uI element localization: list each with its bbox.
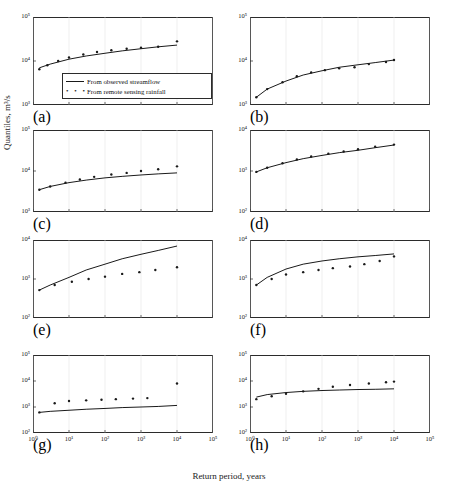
- series-point-remote-sensing-rainfall: [266, 167, 268, 169]
- series-point-remote-sensing-rainfall: [176, 266, 178, 268]
- series-point-remote-sensing-rainfall: [266, 88, 268, 90]
- series-point-remote-sensing-rainfall: [368, 63, 370, 65]
- y-tick-label: 10⁵: [11, 12, 30, 19]
- plot-canvas: [33, 355, 213, 433]
- series-point-remote-sensing-rainfall: [302, 271, 304, 273]
- series-line-observed-streamflow: [256, 145, 394, 172]
- y-tick-label: 10⁴: [11, 56, 30, 63]
- series-point-remote-sensing-rainfall: [138, 271, 140, 273]
- chart-panel-f: 10²10³10⁴: [250, 240, 430, 318]
- series-point-remote-sensing-rainfall: [281, 81, 283, 83]
- chart-panel-h: 10²10³10⁴10⁵10⁰10¹10²10³10⁴10⁵: [250, 355, 430, 433]
- x-tick-label: 10²: [95, 435, 115, 442]
- y-tick-label: 10⁵: [228, 350, 247, 357]
- series-point-remote-sensing-rainfall: [49, 185, 51, 187]
- series-point-remote-sensing-rainfall: [68, 400, 70, 402]
- y-tick-label: 10⁵: [11, 125, 30, 132]
- legend-line-label: From observed streamflow: [87, 78, 160, 85]
- series-point-remote-sensing-rainfall: [85, 399, 87, 401]
- series-point-remote-sensing-rainfall: [100, 399, 102, 401]
- series-point-remote-sensing-rainfall: [393, 59, 395, 61]
- series-point-remote-sensing-rainfall: [71, 281, 73, 283]
- series-point-remote-sensing-rainfall: [176, 40, 178, 42]
- series-point-remote-sensing-rainfall: [368, 382, 370, 384]
- y-tick-label: 10⁴: [228, 125, 247, 132]
- x-tick-label: 10⁵: [420, 435, 440, 442]
- series-point-remote-sensing-rainfall: [115, 398, 117, 400]
- series-point-remote-sensing-rainfall: [357, 148, 359, 150]
- y-tick-label: 10²: [11, 313, 30, 320]
- chart-panel-b: 10³10⁴10⁵: [250, 17, 430, 105]
- series-point-remote-sensing-rainfall: [385, 381, 387, 383]
- series-point-remote-sensing-rainfall: [332, 386, 334, 388]
- y-tick-label: 10³: [228, 274, 247, 281]
- legend-row-dots: • • • From remote sensing rainfall: [66, 86, 208, 96]
- y-tick-label: 10²: [228, 428, 247, 435]
- legend: From observed streamflow • • • From remo…: [62, 73, 212, 99]
- series-point-remote-sensing-rainfall: [110, 49, 112, 51]
- series-point-remote-sensing-rainfall: [349, 384, 351, 386]
- y-tick-label: 10²: [228, 207, 247, 214]
- plot-canvas: [33, 130, 213, 212]
- series-point-remote-sensing-rainfall: [125, 172, 127, 174]
- x-tick-label: 10⁴: [384, 435, 404, 442]
- series-point-remote-sensing-rainfall: [296, 75, 298, 77]
- series-point-remote-sensing-rainfall: [38, 411, 40, 413]
- series-point-remote-sensing-rainfall: [285, 393, 287, 395]
- series-point-remote-sensing-rainfall: [38, 188, 40, 190]
- panel-caption: (d): [250, 215, 269, 233]
- series-point-remote-sensing-rainfall: [378, 260, 380, 262]
- series-point-remote-sensing-rainfall: [393, 255, 395, 257]
- series-point-remote-sensing-rainfall: [302, 390, 304, 392]
- series-point-remote-sensing-rainfall: [154, 269, 156, 271]
- series-point-remote-sensing-rainfall: [64, 181, 66, 183]
- series-point-remote-sensing-rainfall: [157, 46, 159, 48]
- x-tick-label: 10¹: [59, 435, 79, 442]
- series-point-remote-sensing-rainfall: [310, 155, 312, 157]
- series-point-remote-sensing-rainfall: [353, 66, 355, 68]
- series-point-remote-sensing-rainfall: [53, 402, 55, 404]
- series-point-remote-sensing-rainfall: [104, 275, 106, 277]
- panel-caption: (g): [33, 436, 52, 454]
- chart-panel-c: 10³10⁴10⁵: [33, 130, 213, 212]
- y-tick-label: 10³: [228, 402, 247, 409]
- series-point-remote-sensing-rainfall: [374, 146, 376, 148]
- panel-caption: (a): [33, 108, 51, 126]
- y-tick-label: 10³: [228, 166, 247, 173]
- series-point-remote-sensing-rainfall: [157, 168, 159, 170]
- panel-caption: (f): [250, 321, 266, 339]
- series-point-remote-sensing-rainfall: [146, 397, 148, 399]
- y-tick-label: 10⁵: [11, 350, 30, 357]
- series-point-remote-sensing-rainfall: [385, 61, 387, 63]
- legend-dots-swatch-icon: • • •: [66, 87, 84, 95]
- x-tick-label: 10²: [312, 435, 332, 442]
- series-point-remote-sensing-rainfall: [53, 284, 55, 286]
- series-point-remote-sensing-rainfall: [270, 278, 272, 280]
- series-point-remote-sensing-rainfall: [255, 284, 257, 286]
- series-point-remote-sensing-rainfall: [132, 397, 134, 399]
- y-tick-label: 10³: [11, 402, 30, 409]
- series-point-remote-sensing-rainfall: [327, 152, 329, 154]
- series-line-observed-streamflow: [256, 389, 394, 397]
- y-tick-label: 10³: [11, 207, 30, 214]
- series-point-remote-sensing-rainfall: [393, 380, 395, 382]
- y-tick-label: 10²: [228, 313, 247, 320]
- x-tick-label: 10¹: [276, 435, 296, 442]
- legend-line-swatch-icon: [66, 77, 84, 85]
- panel-caption: (h): [250, 436, 269, 454]
- y-tick-label: 10⁴: [11, 166, 30, 173]
- series-point-remote-sensing-rainfall: [125, 48, 127, 50]
- chart-panel-d: 10²10³10⁴: [250, 130, 430, 212]
- plot-canvas: [250, 130, 430, 212]
- y-tick-label: 10⁵: [228, 12, 247, 19]
- y-tick-label: 10⁴: [11, 376, 30, 383]
- plot-canvas: [250, 355, 430, 433]
- plot-canvas: [250, 240, 430, 318]
- series-point-remote-sensing-rainfall: [310, 71, 312, 73]
- series-line-observed-streamflow: [256, 254, 394, 285]
- x-tick-label: 10⁴: [167, 435, 187, 442]
- series-point-remote-sensing-rainfall: [38, 289, 40, 291]
- series-point-remote-sensing-rainfall: [79, 178, 81, 180]
- series-point-remote-sensing-rainfall: [93, 176, 95, 178]
- series-line-observed-streamflow: [39, 405, 177, 412]
